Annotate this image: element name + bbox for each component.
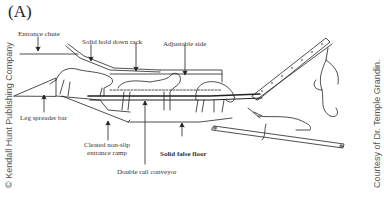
label-double-rail-conveyor: Double rail conveyor <box>117 168 176 176</box>
label-adjustable-side: Adjustable side <box>163 40 206 48</box>
label-leg-spreader-bar: Leg spreader bar <box>20 114 67 122</box>
label-cleated-ramp-line2: entrance ramp <box>84 149 130 157</box>
label-cleated-ramp-line1: Cleated non-slip <box>84 141 130 149</box>
label-solid-false-floor: Solid false floor <box>160 150 207 158</box>
credit-left: © Kendall Hunt Publishing Company <box>4 42 14 188</box>
label-cleated-ramp: Cleated non-slip entrance ramp <box>84 141 130 157</box>
credit-right: Courtesy of Dr. Temple Grandin. <box>372 60 382 188</box>
label-entrance-chute: Entrance chute <box>18 30 60 38</box>
label-solid-hold-down-rack: Solid hold down rack <box>82 38 142 46</box>
restrainer-diagram: (A) <box>0 0 384 198</box>
